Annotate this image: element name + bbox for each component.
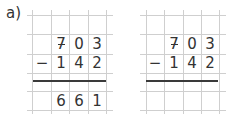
result-rule — [146, 80, 218, 82]
minuend-digit-tens: 0 — [70, 35, 88, 54]
subtrahend-digit-hundreds: 1 — [52, 54, 70, 73]
grid-line — [106, 10, 107, 114]
subtrahend-digit-tens: 4 — [183, 54, 201, 73]
grid-line — [27, 73, 113, 74]
minuend-digit-hundreds: 7 — [165, 35, 183, 54]
result-digit-hundreds[interactable] — [165, 92, 183, 111]
minuend-digit-ones: 3 — [201, 35, 219, 54]
minus-operator: − — [146, 54, 164, 73]
grid-line — [27, 15, 113, 16]
minuend-digit-tens: 0 — [183, 35, 201, 54]
subtrahend-digit-hundreds: 1 — [165, 54, 183, 73]
result-digit-tens: 6 — [70, 92, 88, 111]
minuend-digit-ones: 3 — [88, 35, 106, 54]
minuend-digit-hundreds: 7 — [52, 35, 70, 54]
grid-line — [219, 10, 220, 114]
result-digit-ones[interactable] — [201, 92, 219, 111]
subtrahend-digit-ones: 2 — [201, 54, 219, 73]
subtrahend-digit-tens: 4 — [70, 54, 88, 73]
result-rule — [33, 80, 106, 82]
exercise-label: a) — [6, 4, 21, 22]
minus-operator: − — [33, 54, 51, 73]
result-digit-ones: 1 — [88, 92, 106, 111]
result-digit-tens[interactable] — [183, 92, 201, 111]
subtrahend-digit-ones: 2 — [88, 54, 106, 73]
result-digit-hundreds: 6 — [52, 92, 70, 111]
